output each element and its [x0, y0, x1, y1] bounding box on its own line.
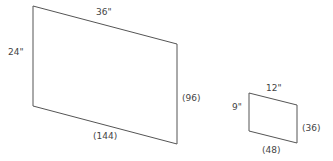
large-bottom-dimension-label: (144) [93, 132, 117, 141]
small-rectangle-perspective [249, 93, 297, 143]
small-top-dimension-label: 12" [266, 84, 282, 93]
small-right-dimension-label: (36) [302, 124, 320, 133]
large-rectangle-perspective [33, 6, 177, 144]
large-right-dimension-label: (96) [182, 94, 200, 103]
large-top-dimension-label: 36" [96, 8, 112, 17]
large-left-dimension-label: 24" [8, 48, 24, 57]
small-bottom-dimension-label: (48) [262, 146, 280, 155]
diagram-canvas [0, 0, 333, 161]
small-left-dimension-label: 9" [232, 103, 242, 112]
